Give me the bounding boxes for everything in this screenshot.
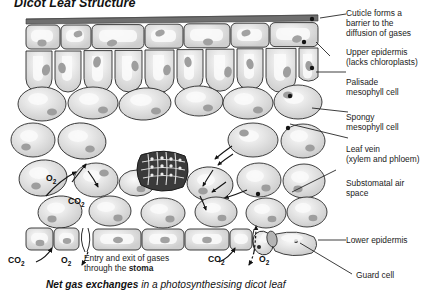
leaf-vein-bundle xyxy=(137,151,188,191)
leaf-diagram-canvas: Dicot Leaf Structure Cuticle forms a bar… xyxy=(0,0,430,298)
stoma-note: Entry and exit of gases through the stom… xyxy=(84,253,169,274)
caption-rest: in a photosynthesising dicot leaf xyxy=(138,279,285,290)
page-title: Dicot Leaf Structure xyxy=(14,0,135,10)
gas-co2-right: CO2 xyxy=(208,254,224,266)
label-lower-epidermis: Lower epidermis xyxy=(346,235,407,245)
caption-bold: Net gas exchanges xyxy=(46,279,138,290)
label-guard-cell: Guard cell xyxy=(356,270,394,280)
gas-o2-internal: O2 xyxy=(46,173,56,185)
guard-cell-pair-right xyxy=(250,229,316,258)
label-palisade-mesophyll: Palisade mesophyll cell xyxy=(346,77,399,97)
label-leaf-vein: Leaf vein (xylem and phloem) xyxy=(346,144,420,164)
label-upper-epidermis: Upper epidermis (lacks chloroplasts) xyxy=(346,47,418,67)
figure-caption: Net gas exchanges in a photosynthesising… xyxy=(46,279,286,290)
o2-out-right-arrow xyxy=(249,252,254,265)
gas-co2-left: CO2 xyxy=(8,255,24,267)
label-cuticle: Cuticle forms a barrier to the diffusion… xyxy=(346,8,411,39)
label-substomatal-air: Substomatal air space xyxy=(346,178,404,198)
gas-o2-left: O2 xyxy=(61,255,71,267)
label-spongy-mesophyll: Spongy mesophyll cell xyxy=(346,112,399,132)
gas-co2-internal: CO2 xyxy=(68,196,84,208)
gas-o2-right: O2 xyxy=(259,254,269,266)
